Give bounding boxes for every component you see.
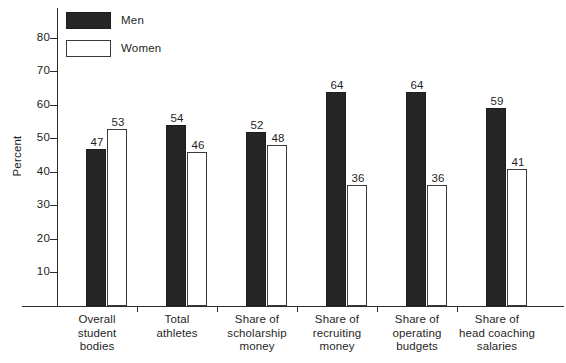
x-tick-4 — [457, 306, 458, 312]
y-tick-label-60: 60 — [24, 99, 50, 111]
bar-women-0: 53 — [107, 129, 127, 307]
bar-men-0: 47 — [86, 149, 106, 306]
bar-group-overall-student-bodies: 47 53 — [86, 8, 128, 306]
x-axis-line — [22, 306, 564, 307]
y-axis-title: Percent — [11, 116, 23, 196]
bar-group-share-of-scholarship-money: 52 48 — [246, 8, 288, 306]
y-tick-label-10: 10 — [24, 266, 50, 278]
bar-men-4: 64 — [406, 92, 426, 306]
bar-value-men-4: 64 — [402, 79, 432, 91]
bar-value-women-5: 41 — [503, 156, 533, 168]
bar-women-5: 41 — [507, 169, 527, 306]
y-tick-40 — [50, 172, 57, 173]
y-tick-80 — [50, 38, 57, 39]
y-tick-label-20: 20 — [24, 233, 50, 245]
x-axis-label-0-line-3: bodies — [45, 340, 149, 354]
bar-value-women-2: 48 — [263, 132, 293, 144]
y-tick-10 — [50, 272, 57, 273]
y-tick-50 — [50, 138, 57, 139]
bar-women-1: 46 — [187, 152, 207, 306]
y-tick-label-30: 30 — [24, 199, 50, 211]
bar-group-share-of-recruiting-money: 64 36 — [326, 8, 368, 306]
y-tick-label-70: 70 — [24, 65, 50, 77]
bar-group-total-athletes: 54 46 — [166, 8, 208, 306]
bar-women-3: 36 — [347, 185, 367, 306]
x-tick-0 — [137, 306, 138, 312]
x-tick-3 — [377, 306, 378, 312]
bar-value-men-3: 64 — [322, 79, 352, 91]
bar-men-5: 59 — [486, 108, 506, 306]
y-tick-label-50: 50 — [24, 132, 50, 144]
bar-men-2: 52 — [246, 132, 266, 306]
y-tick-label-80: 80 — [24, 32, 50, 44]
bar-value-men-1: 54 — [162, 112, 192, 124]
x-axis-label-5-line-2: head coaching — [445, 327, 549, 341]
bar-value-women-4: 36 — [423, 172, 453, 184]
x-axis-label-5: Share of head coaching salaries — [445, 313, 549, 354]
y-tick-70 — [50, 71, 57, 72]
bar-chart: Percent 80 70 60 50 40 30 20 10 Men Wome… — [0, 0, 566, 363]
y-tick-60 — [50, 105, 57, 106]
bar-value-women-3: 36 — [343, 172, 373, 184]
bar-value-men-2: 52 — [242, 119, 272, 131]
x-axis-label-5-line-3: salaries — [445, 340, 549, 354]
x-tick-2 — [297, 306, 298, 312]
bar-women-4: 36 — [427, 185, 447, 306]
bar-group-share-of-head-coaching-salaries: 59 41 — [486, 8, 528, 306]
bar-men-3: 64 — [326, 92, 346, 306]
x-tick-1 — [217, 306, 218, 312]
y-tick-label-40: 40 — [24, 166, 50, 178]
bar-group-share-of-operating-budgets: 64 36 — [406, 8, 448, 306]
y-tick-30 — [50, 205, 57, 206]
y-tick-20 — [50, 239, 57, 240]
bar-value-women-1: 46 — [183, 139, 213, 151]
bar-value-men-5: 59 — [482, 95, 512, 107]
bar-men-1: 54 — [166, 125, 186, 306]
plot-area: 47 53 54 46 52 48 64 — [58, 8, 564, 306]
bar-value-women-0: 53 — [103, 116, 133, 128]
x-axis-label-5-line-1: Share of — [445, 313, 549, 327]
bar-women-2: 48 — [267, 145, 287, 306]
